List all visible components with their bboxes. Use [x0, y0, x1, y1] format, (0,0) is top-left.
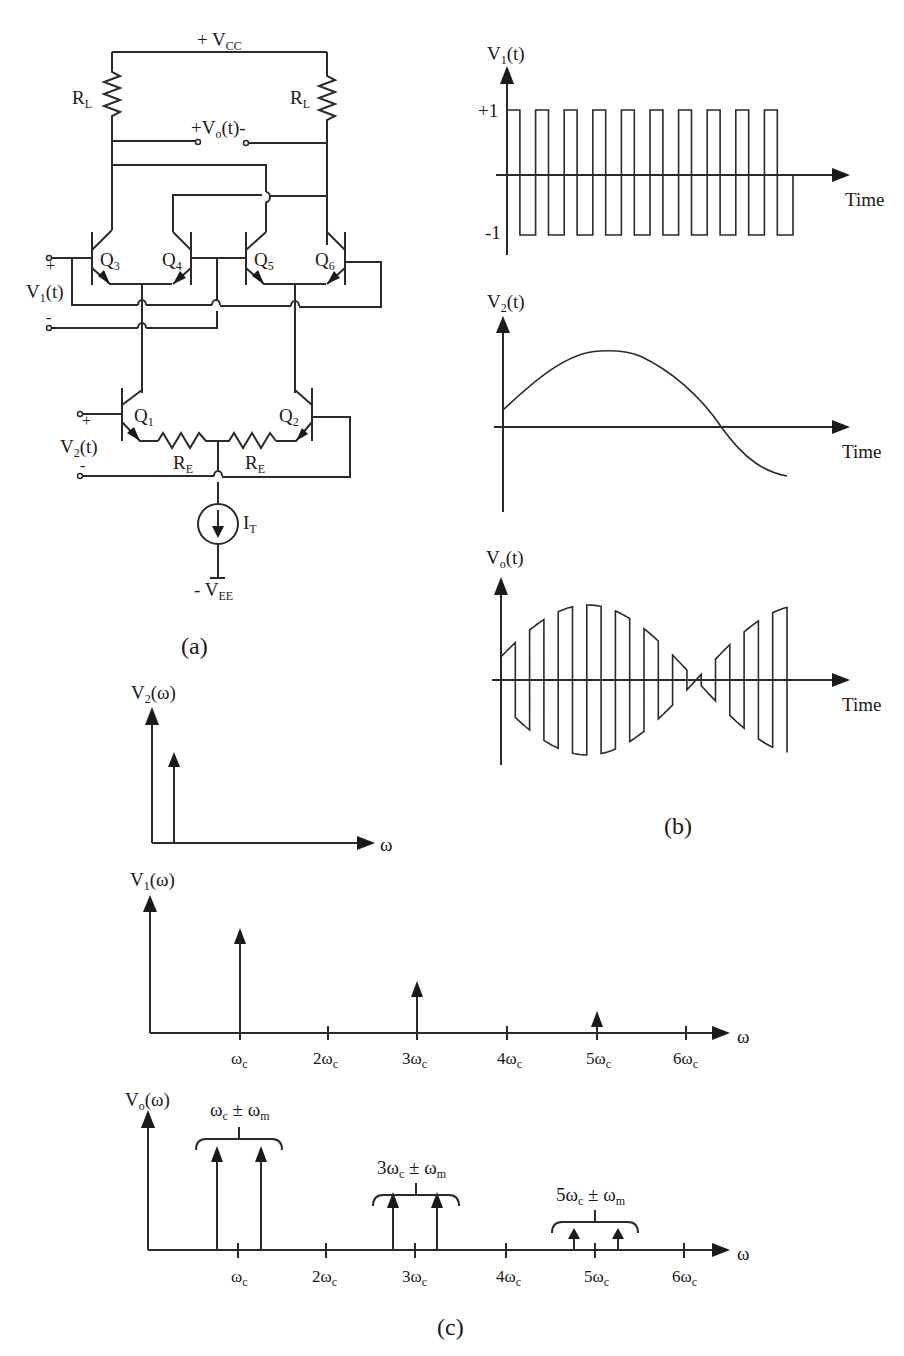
v1w-tick-2: 2ωc	[313, 1050, 338, 1070]
v1-spectrum-plot	[143, 895, 730, 1040]
vow-tick-4: 4ωc	[496, 1268, 521, 1288]
v1t-minus1-tick: -1	[485, 223, 501, 242]
q1-label: Q1	[134, 406, 154, 428]
v2-spectrum-plot	[145, 707, 375, 850]
vow-tick-3: 3ωc	[402, 1268, 427, 1288]
re-left-label: RE	[173, 453, 193, 475]
vot-xlabel: Time	[842, 695, 881, 714]
v2w-xlabel: ω	[380, 835, 393, 854]
v1w-ylabel: V1(ω)	[130, 870, 175, 892]
rl-left-label: RL	[72, 88, 92, 110]
vow-annotation-1: ωc ± ωm	[210, 1100, 270, 1122]
caption-b: (b)	[664, 814, 692, 838]
output-terminal-plus	[196, 140, 201, 145]
v1-plus-sign: +	[46, 258, 55, 274]
vo-output-label: +Vo(t)-	[191, 118, 246, 140]
circuit-schematic	[0, 0, 904, 1356]
rl-right-label: RL	[290, 88, 310, 110]
v1-time-plot	[496, 66, 850, 255]
v1w-xlabel: ω	[737, 1027, 750, 1046]
v1w-tick-6: 6ωc	[673, 1050, 698, 1070]
vow-ylabel: Vo(ω)	[125, 1090, 170, 1112]
vo-spectrum-plot	[141, 1110, 730, 1258]
v1w-tick-5: 5ωc	[586, 1050, 611, 1070]
v1-input-label: V1(t)	[26, 282, 64, 304]
v2t-ylabel: V2(t)	[487, 292, 525, 314]
vow-tick-5: 5ωc	[584, 1268, 609, 1288]
v1w-tick-1: ωc	[231, 1050, 248, 1070]
vow-tick-6: 6ωc	[672, 1268, 697, 1288]
v1t-ylabel: V1(t)	[487, 44, 525, 66]
v2w-ylabel: V2(ω)	[131, 683, 176, 705]
v1t-xlabel: Time	[845, 190, 884, 209]
v1w-tick-3: 3ωc	[402, 1050, 427, 1070]
q4-label: Q4	[162, 250, 182, 272]
vow-xlabel: ω	[737, 1244, 750, 1263]
v1w-tick-4: 4ωc	[497, 1050, 522, 1070]
v2-time-plot	[494, 316, 850, 512]
vow-tick-1: ωc	[231, 1268, 248, 1288]
vot-ylabel: Vo(t)	[486, 548, 524, 570]
vcc-label: + VCC	[197, 30, 242, 52]
vow-annotation-3: 5ωc ± ωm	[556, 1185, 625, 1207]
q2-label: Q2	[279, 406, 299, 428]
vee-label: - VEE	[194, 580, 233, 602]
output-terminal-minus	[244, 141, 249, 146]
emitter-resistor-right-icon	[218, 433, 276, 448]
caption-a: (a)	[181, 634, 208, 658]
current-source-icon	[198, 504, 238, 544]
v1-minus-sign: -	[46, 310, 51, 326]
q6-label: Q6	[315, 250, 335, 272]
v2-input-label: V2(t)	[60, 437, 98, 459]
vow-tick-2: 2ωc	[312, 1268, 337, 1288]
vo-time-plot	[492, 577, 850, 765]
q3-label: Q3	[100, 250, 120, 272]
it-label: IT	[243, 513, 257, 535]
re-right-label: RE	[245, 453, 265, 475]
load-resistor-right-icon	[319, 52, 335, 245]
caption-c: (c)	[437, 1315, 464, 1339]
v2t-xlabel: Time	[842, 442, 881, 461]
vow-annotation-2: 3ωc ± ωm	[377, 1158, 446, 1180]
v1t-plus1-tick: +1	[478, 101, 498, 120]
q5-label: Q5	[254, 250, 274, 272]
emitter-resistor-left-icon	[158, 433, 218, 448]
v2-minus-sign: -	[80, 458, 85, 474]
v2-plus-sign: +	[82, 413, 91, 429]
